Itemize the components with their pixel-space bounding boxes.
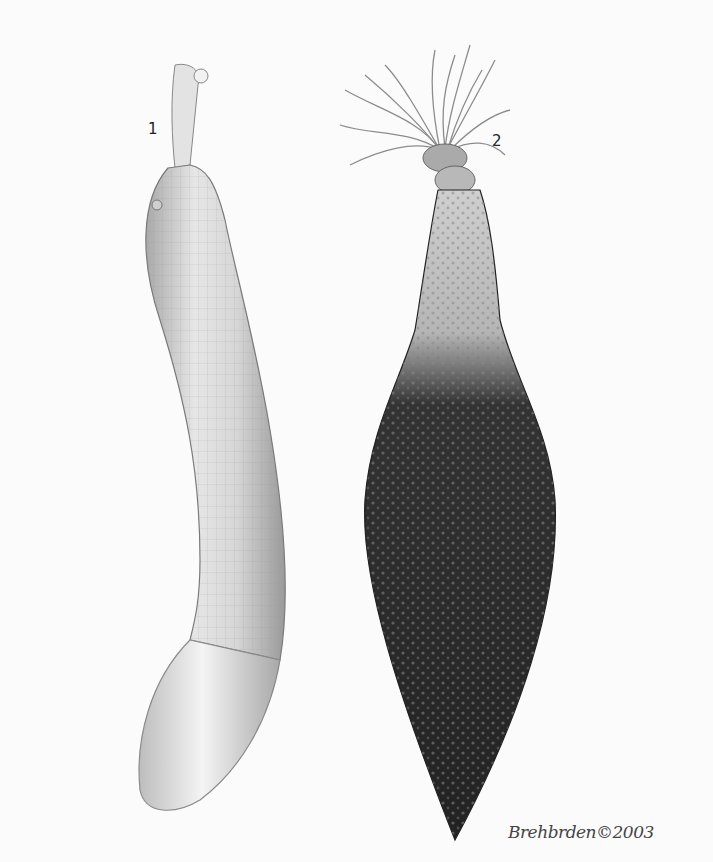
specimen-1-bulb bbox=[139, 640, 280, 810]
specimen-2 bbox=[340, 45, 555, 840]
illustration-canvas: 1 2 Brehbrden©2003 bbox=[0, 0, 713, 862]
specimen-2-label: 2 bbox=[492, 132, 502, 150]
specimen-1 bbox=[139, 64, 285, 810]
specimen-2-tentacles bbox=[340, 45, 510, 165]
artist-signature: Brehbrden©2003 bbox=[508, 822, 654, 842]
specimen-drawings bbox=[0, 0, 713, 862]
specimen-1-label: 1 bbox=[148, 120, 158, 138]
